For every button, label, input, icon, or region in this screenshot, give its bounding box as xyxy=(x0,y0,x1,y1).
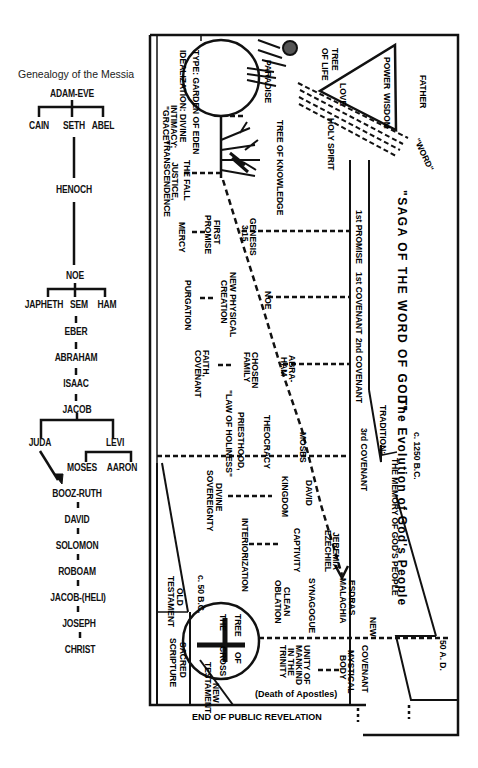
label-wisdom: WISDOM xyxy=(382,93,392,129)
footer-end-of-revelation: END OF PUBLIC REVELATION xyxy=(192,712,322,722)
label-paradise: PARADISE xyxy=(263,60,273,104)
label-malachia: MALACHIA xyxy=(338,578,348,623)
label-body: BODY xyxy=(338,655,348,680)
label-cross-cross: CROSS xyxy=(218,646,228,677)
label-purgation: PURGATION xyxy=(183,280,193,330)
label-3rd-covenant: 3rd COVENANT xyxy=(359,428,369,492)
date-start: c. 1250 B.C. xyxy=(412,432,422,480)
tradition-label: TRADITION: xyxy=(378,405,388,454)
label-kingdom: KINGDOM xyxy=(280,476,290,517)
label-old-testament: TESTAMENT xyxy=(166,576,176,628)
label-tree-of-knowledge: TREE OF KNOWLEDGE xyxy=(275,120,285,216)
label-death-of-apostles: (Death of Apostles) xyxy=(255,689,337,699)
label-david: DAVID xyxy=(304,480,314,506)
label-sacred: SACRED xyxy=(178,642,188,678)
label-of-life: OF LIFE xyxy=(320,48,330,81)
label-holy-spirit: HOLY SPIRIT xyxy=(326,118,336,171)
label-grace: "GRACE" xyxy=(161,106,171,145)
label-word: "WORD" xyxy=(412,137,436,173)
label-scripture: SCRIPTURE xyxy=(168,638,178,687)
label-creation: CREATION xyxy=(219,280,229,324)
label-interiorization: INTERIORIZATION xyxy=(240,518,250,592)
label-family: FAMILY xyxy=(242,352,252,383)
label-the-fall: THE FALL xyxy=(182,160,192,201)
label-oblation: OBLATION xyxy=(273,580,283,624)
date-end: 50 A. D. xyxy=(438,640,448,671)
tree-of-knowledge-icon xyxy=(221,122,260,176)
label-noe: NOE xyxy=(263,291,273,310)
label-1st-covenant: 1st COVENANT xyxy=(354,272,364,335)
label-1st-promise: 1st PROMISE xyxy=(354,210,364,264)
label-date-mid: c. 50 B.C. xyxy=(196,575,206,613)
label-priesthood: PRIESTHOOD, xyxy=(236,412,246,471)
label-moses: MOSES xyxy=(298,432,308,463)
tradition-text: THE MEMORY OF GOD'S PEOPLE xyxy=(390,458,400,596)
label-new-covenant: COVENANT xyxy=(360,645,370,694)
label-father: FATHER xyxy=(418,75,428,108)
label-love: LOVE xyxy=(338,83,348,106)
label-new-testament: TESTAMENT xyxy=(203,662,213,714)
label-ham: HAM xyxy=(279,357,289,376)
label-type-garden: TYPE: GARDEN OF EDEN xyxy=(191,50,201,154)
saga-diagram: "SAGA OF THE WORD OF GOD" The Evolution … xyxy=(0,0,478,768)
label-genesis-ref: 3,15 xyxy=(240,225,250,242)
label-promise: PROMISE xyxy=(203,215,213,255)
label-cross-of: OF xyxy=(233,652,243,664)
saga-page: Genealogy of the Messia xyxy=(0,0,478,768)
label-cross-the: THE xyxy=(218,614,228,631)
label-theocracy: THEOCRACY xyxy=(262,415,272,469)
label-synagogue: SYNAGOGUE xyxy=(307,578,317,634)
label-mercy: MERCY xyxy=(177,222,187,253)
label-new: NEW xyxy=(368,617,378,638)
label-transcendence: TRANSCENDENCE xyxy=(162,140,172,217)
label-covenant: COVENANT xyxy=(193,350,203,399)
label-cross-tree: TREE xyxy=(233,614,243,637)
label-tree: TREE xyxy=(330,48,340,71)
label-trinity: TRINITY xyxy=(278,645,288,678)
saga-title: "SAGA OF THE WORD OF GOD" xyxy=(395,190,409,412)
label-ezechiel: EZECHIEL xyxy=(323,530,333,572)
label-law-of-holiness: "LAW OF HOLINESS" xyxy=(224,390,234,477)
label-power: POWER xyxy=(382,57,392,89)
label-2nd-covenant: 2nd COVENANT xyxy=(354,338,364,404)
label-sovereignty: SOVEREIGNTY xyxy=(205,470,215,532)
label-captivity: CAPTIVITY xyxy=(292,528,302,573)
